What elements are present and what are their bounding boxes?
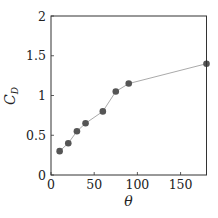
chart: 050100150 00.511.52 CD θ	[0, 0, 218, 218]
x-tick-label: 150	[169, 177, 193, 192]
y-tick-label: 1.5	[26, 48, 46, 63]
data-point-marker	[125, 80, 132, 87]
y-tick-label: 0.5	[26, 128, 46, 143]
y-axis-ticks: 00.511.52	[26, 9, 54, 183]
data-point-marker	[100, 108, 107, 115]
y-tick-label: 0	[38, 168, 46, 183]
series-line	[60, 64, 207, 151]
data-point-marker	[74, 128, 81, 135]
y-tick-label: 2	[38, 9, 46, 24]
y-tick-label: 1	[38, 88, 46, 103]
data-point-marker	[82, 120, 89, 127]
x-axis-label: θ	[124, 193, 133, 209]
x-tick-label: 0	[47, 177, 55, 192]
data-point-marker	[65, 140, 72, 147]
x-tick-label: 100	[125, 177, 149, 192]
y-axis-label: CD	[2, 87, 20, 105]
x-tick-label: 50	[86, 177, 102, 192]
data-point-marker	[56, 148, 63, 155]
plot-frame	[51, 16, 207, 175]
data-series	[56, 60, 209, 154]
data-point-marker	[112, 88, 119, 95]
